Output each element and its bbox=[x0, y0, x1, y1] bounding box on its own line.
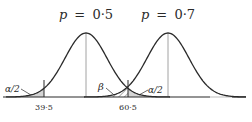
label-p05: p = 0·5 bbox=[59, 7, 113, 22]
critical-label-60-5: 60·5 bbox=[119, 103, 137, 112]
leader-beta bbox=[106, 88, 113, 94]
leader-left-alpha bbox=[21, 89, 31, 95]
critical-label-39-5: 39·5 bbox=[35, 103, 53, 112]
label-p07: p = 0·7 bbox=[141, 7, 195, 22]
curve-p07 bbox=[84, 33, 246, 97]
label-left-alpha: α/2 bbox=[5, 84, 20, 94]
label-beta: β bbox=[97, 81, 104, 92]
label-right-alpha: α/2 bbox=[148, 85, 163, 95]
curve-p05 bbox=[6, 33, 170, 97]
diagram-canvas: p = 0·5 p = 0·7 α/2 β α/2 39·5 60·5 bbox=[0, 0, 252, 122]
leader-right-alpha bbox=[139, 90, 148, 95]
